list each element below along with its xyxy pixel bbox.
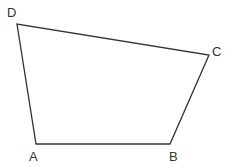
vertex-label-c: C <box>212 45 221 58</box>
vertex-label-d: D <box>7 6 16 19</box>
vertex-label-a: A <box>29 150 38 163</box>
quadrilateral-abcd <box>17 24 209 144</box>
vertex-label-b: B <box>169 150 178 163</box>
quadrilateral-diagram <box>0 0 232 167</box>
